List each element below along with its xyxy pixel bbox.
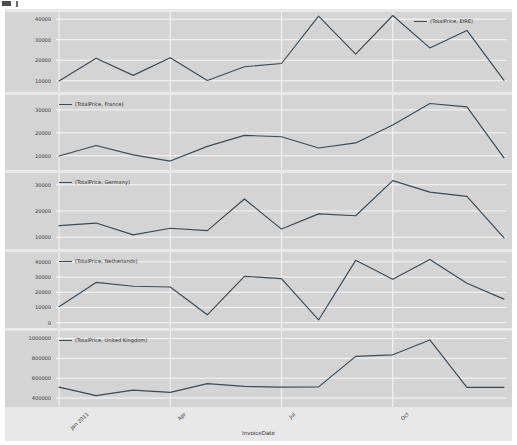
legend-france[interactable]: (TotalPrice, France) (59, 101, 123, 107)
legend-line-swatch (59, 261, 72, 262)
y-axis-tick-label: 40000 (7, 259, 51, 265)
y-axis-tick-label: 600000 (7, 375, 51, 381)
y-axis-tick-label: 10000 (7, 153, 51, 159)
legend-eire[interactable]: (TotalPrice, EIRE) (414, 18, 473, 24)
plot-area-france (56, 95, 507, 170)
corner-marker-block (2, 1, 11, 6)
corner-marker-tick (16, 1, 18, 7)
legend-germany[interactable]: (TotalPrice, Germany) (59, 179, 130, 185)
y-axis-tick-label: 30000 (7, 107, 51, 113)
x-axis-tick-label: Jan 2011 (69, 411, 90, 431)
plot-area-eire (56, 12, 507, 92)
x-axis-label: InvoiceDate (5, 430, 512, 436)
legend-line-swatch (59, 182, 72, 183)
y-axis-tick-label: 1000000 (7, 335, 51, 341)
window-corner-marker (2, 1, 24, 8)
y-axis-tick-label: 0 (7, 320, 51, 326)
y-axis-tick-label: 30000 (7, 37, 51, 43)
y-axis-tick-label: 30000 (7, 274, 51, 280)
legend-label: (TotalPrice, Netherlands) (75, 258, 138, 264)
y-axis-tick-label: 400000 (7, 395, 51, 401)
y-axis-tick-label: 20000 (7, 130, 51, 136)
y-axis-tick-label: 10000 (7, 304, 51, 310)
y-axis-tick-label: 30000 (7, 182, 51, 188)
legend-label: (TotalPrice, EIRE) (430, 18, 473, 24)
x-axis-tick-label: Oct (399, 411, 410, 421)
y-axis-tick-label: 20000 (7, 57, 51, 63)
y-axis-tick-label: 800000 (7, 355, 51, 361)
legend-united-kingdom[interactable]: (TotalPrice, United Kingdom) (59, 337, 147, 343)
y-axis-tick-label: 20000 (7, 208, 51, 214)
y-axis-tick-label: 40000 (7, 16, 51, 22)
legend-line-swatch (59, 340, 72, 341)
legend-line-swatch (414, 21, 427, 22)
x-axis-tick-label: Apr (177, 411, 188, 421)
y-axis-tick-label: 20000 (7, 289, 51, 295)
legend-label: (TotalPrice, France) (75, 101, 123, 107)
legend-label: (TotalPrice, Germany) (75, 179, 130, 185)
series-canvas (56, 12, 507, 92)
series-canvas (56, 95, 507, 170)
y-axis-tick-label: 10000 (7, 234, 51, 240)
legend-label: (TotalPrice, United Kingdom) (75, 337, 147, 343)
y-axis-tick-label: 10000 (7, 78, 51, 84)
chart-figure-root: 10000200003000040000(TotalPrice, EIRE)10… (0, 0, 517, 445)
figure-canvas: 10000200003000040000(TotalPrice, EIRE)10… (5, 9, 512, 441)
x-axis-tick-label: Jul (287, 411, 296, 420)
legend-netherlands[interactable]: (TotalPrice, Netherlands) (59, 258, 138, 264)
legend-line-swatch (59, 104, 72, 105)
